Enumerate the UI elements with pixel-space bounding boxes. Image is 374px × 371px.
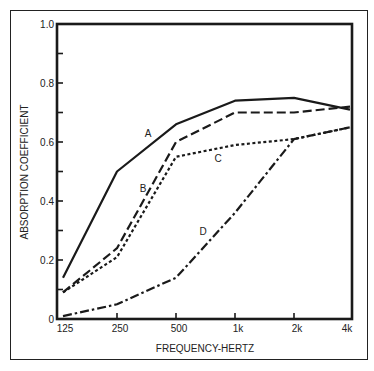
curve-label-c: C bbox=[214, 153, 221, 164]
series-d-line bbox=[63, 127, 350, 316]
x-axis-title: FREQUENCY-HERTZ bbox=[156, 343, 254, 354]
curve-label-a: A bbox=[145, 128, 152, 139]
absorption-chart: 00.20.40.60.81.01252505001k2k4k ABCD FRE… bbox=[0, 0, 374, 371]
plot-box bbox=[57, 24, 352, 319]
y-tick-label: 0 bbox=[48, 314, 54, 325]
x-tick-label: 500 bbox=[171, 323, 188, 334]
curve-label-d: D bbox=[199, 226, 206, 237]
x-tick-label: 2k bbox=[292, 323, 304, 334]
series-c-line bbox=[63, 127, 350, 292]
x-tick-label: 125 bbox=[57, 323, 74, 334]
y-tick-label: 0.4 bbox=[40, 196, 54, 207]
curve-label-b: B bbox=[140, 183, 147, 194]
y-tick-label: 0.2 bbox=[40, 255, 54, 266]
y-axis-title: ABSORPTION COEFFICIENT bbox=[19, 104, 30, 239]
y-tick-label: 0.6 bbox=[40, 137, 54, 148]
y-tick-label: 1.0 bbox=[40, 19, 54, 30]
y-tick-label: 0.8 bbox=[40, 78, 54, 89]
x-tick-label: 250 bbox=[112, 323, 129, 334]
x-tick-label: 1k bbox=[233, 323, 245, 334]
x-tick-label: 4k bbox=[342, 323, 354, 334]
plot-series bbox=[63, 98, 350, 316]
series-a-line bbox=[63, 98, 350, 278]
plot-axes: 00.20.40.60.81.01252505001k2k4k bbox=[40, 19, 353, 335]
